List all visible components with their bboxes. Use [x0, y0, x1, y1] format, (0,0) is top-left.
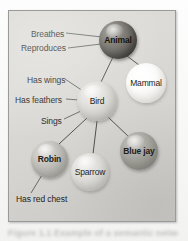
- edge-bird-robin: [59, 118, 87, 144]
- label-reproduces: Reproduces: [21, 43, 66, 53]
- node-robin[interactable]: Robin: [31, 141, 68, 178]
- node-mammal[interactable]: Mammal: [126, 63, 166, 103]
- node-mammal-label: Mammal: [130, 79, 162, 88]
- figure-page: Animal Mammal Bird Robin Sparrow Blue ja…: [0, 0, 188, 241]
- edge-bird-bluejay: [108, 117, 129, 137]
- label-has-feathers: Has feathers: [15, 95, 62, 105]
- leader-line-breathes: [66, 33, 102, 37]
- node-sparrow-label: Sparrow: [75, 168, 106, 177]
- leader-line-sings: [64, 111, 81, 119]
- label-sings: Sings: [41, 116, 62, 126]
- node-bird-label: Bird: [90, 97, 105, 106]
- leader-line-reproduces: [68, 44, 101, 48]
- semantic-network-figure: Animal Mammal Bird Robin Sparrow Blue ja…: [8, 10, 176, 222]
- label-has-red-chest: Has red chest: [16, 194, 68, 204]
- node-animal[interactable]: Animal: [99, 21, 137, 59]
- edge-animal-bird: [101, 57, 113, 82]
- figure-caption: Figure 1.1 Example of a semantic network: [8, 228, 178, 241]
- node-sparrow[interactable]: Sparrow: [71, 153, 109, 191]
- label-breathes: Breathes: [31, 29, 64, 39]
- node-robin-label: Robin: [38, 155, 61, 164]
- label-has-wings: Has wings: [27, 75, 65, 85]
- node-animal-label: Animal: [104, 36, 131, 45]
- edge-bird-sparrow: [93, 121, 97, 154]
- node-bluejay[interactable]: Blue jay: [120, 132, 158, 170]
- node-bluejay-label: Blue jay: [123, 147, 154, 156]
- leader-line-has-red-chest: [31, 175, 42, 193]
- node-bird[interactable]: Bird: [77, 81, 117, 121]
